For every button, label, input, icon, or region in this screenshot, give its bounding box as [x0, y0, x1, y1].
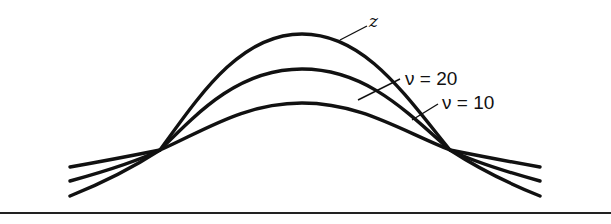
density-diagram: z ν = 20 ν = 10	[0, 0, 611, 224]
curve-v20	[70, 69, 540, 181]
label-v20: ν = 20	[405, 68, 457, 89]
label-v10: ν = 10	[442, 92, 494, 113]
label-z: z	[368, 11, 379, 31]
leader-z	[340, 26, 367, 40]
curve-z	[70, 34, 540, 196]
